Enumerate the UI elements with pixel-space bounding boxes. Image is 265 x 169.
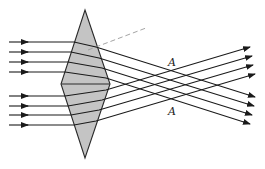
label-a-upper: A bbox=[167, 56, 176, 69]
ray-upper-2 bbox=[9, 52, 254, 106]
label-a-lower: A bbox=[167, 105, 176, 118]
ray-lower-2 bbox=[9, 56, 252, 106]
upper-ray-group bbox=[9, 42, 255, 124]
ray-lower-4 bbox=[9, 74, 255, 125]
ray-upper-3 bbox=[9, 62, 252, 115]
lens-ray-diagram: A A bbox=[0, 0, 265, 169]
ray-upper-4 bbox=[9, 72, 250, 124]
ray-upper-1 bbox=[9, 42, 255, 97]
